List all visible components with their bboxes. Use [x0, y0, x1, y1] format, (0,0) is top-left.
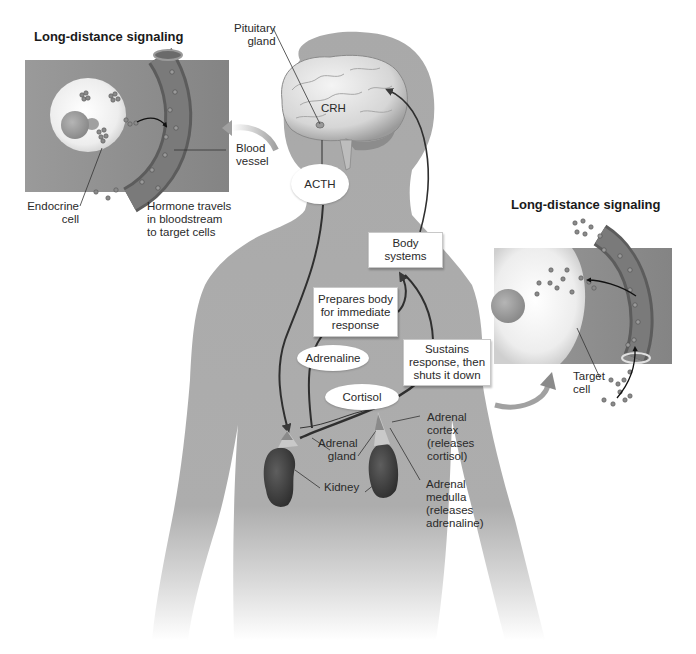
cortisol-hormone-oval: Cortisol: [325, 384, 399, 410]
adrenaline-hormone-oval: Adrenaline: [297, 345, 369, 371]
endocrine-cell-label: Endocrine cell: [23, 200, 79, 226]
kidney-label: Kidney: [324, 481, 359, 494]
hormone-travels-label: Hormone travels in bloodstream to target…: [147, 200, 231, 239]
body-systems-box: Body systems: [368, 232, 443, 268]
adrenal-gland-label: Adrenal gland: [318, 437, 356, 463]
adrenal-medulla-label: Adrenal medulla (releases adrenaline): [426, 478, 484, 530]
sustains-response-box: Sustains response, then shuts it down: [403, 339, 491, 386]
left-signaling-panel: [25, 50, 229, 200]
left-panel-title: Long-distance signaling: [34, 29, 184, 44]
pituitary-gland-label: Pituitary gland: [234, 22, 276, 48]
acth-hormone-oval: ACTH: [291, 164, 349, 204]
adrenal-cortex-label: Adrenal cortex (releases cortisol): [427, 411, 474, 463]
blood-vessel-label: Blood vessel: [236, 142, 269, 168]
crh-label: CRH: [321, 102, 346, 115]
prepares-body-box: Prepares body for immediate response: [313, 287, 398, 337]
right-panel-title: Long-distance signaling: [511, 197, 661, 212]
target-cell-label: Target cell: [573, 370, 605, 396]
pituitary-gland-marker: [316, 122, 324, 128]
arrow-to-right-panel: [495, 385, 548, 407]
